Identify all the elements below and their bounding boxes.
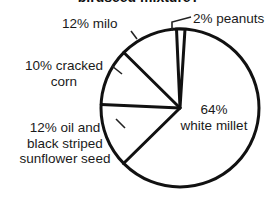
- slice-label-sunflower-line1: 12% oil and: [4, 120, 126, 136]
- slice-label-sunflower-line2: black striped: [4, 136, 126, 152]
- slice-label-peanuts: 2% peanuts: [193, 11, 264, 27]
- slice-label-peanuts-text: 2% peanuts: [193, 11, 264, 27]
- slice-label-milo-text: 12% milo: [62, 16, 118, 32]
- slice-label-white-millet-line1: 64%: [168, 102, 260, 118]
- slice-label-sunflower-line3: sunflower seed: [4, 151, 126, 167]
- slice-label-cracked-corn-line1: 10% cracked: [8, 58, 120, 74]
- pie-chart-figure: birdseed mixture? 12% milo 2% peanuts 10…: [0, 0, 277, 199]
- slice-label-white-millet-line2: white millet: [168, 118, 260, 134]
- slice-label-cracked-corn-line2: corn: [8, 74, 120, 90]
- leader-line-milo: [131, 31, 137, 39]
- pie-chart-graphic: [0, 0, 277, 199]
- slice-label-milo: 12% milo: [62, 16, 118, 32]
- slice-label-sunflower: 12% oil and black striped sunflower seed: [4, 120, 126, 167]
- slice-label-cracked-corn: 10% cracked corn: [8, 58, 120, 89]
- slice-label-white-millet: 64% white millet: [168, 102, 260, 133]
